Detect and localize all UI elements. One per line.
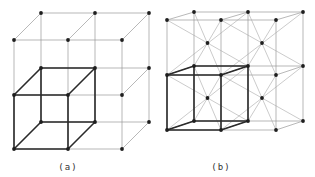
lattice-atom: [39, 11, 43, 15]
lattice-atom: [192, 64, 196, 68]
lattice-edge: [122, 122, 149, 149]
lattice-edge: [276, 121, 303, 130]
lattice-edge: [68, 13, 95, 40]
lattice-edge: [14, 13, 41, 40]
lattice-atom: [274, 73, 278, 77]
lattice-edge: [122, 68, 149, 95]
unit-cell-edge: [221, 66, 248, 75]
lattice-atom: [12, 147, 16, 151]
lattice-atom: [120, 93, 124, 97]
lattice-atom: [274, 128, 278, 132]
lattice-atom: [274, 18, 278, 22]
body-center-atom: [206, 41, 210, 45]
unit-cell-edge: [167, 66, 194, 75]
lattice-atom: [120, 38, 124, 42]
simple-cubic-lattice-panel: [12, 11, 151, 151]
lattice-edge: [167, 12, 194, 20]
lattice-edge: [122, 13, 149, 40]
lattice-edge: [221, 12, 248, 20]
lattice-atom: [219, 73, 223, 77]
lattice-atom: [39, 66, 43, 70]
body-center-atom: [260, 41, 264, 45]
lattice-atom: [147, 11, 151, 15]
lattice-atom: [165, 18, 169, 22]
lattice-atom: [219, 128, 223, 132]
lattice-atom: [66, 147, 70, 151]
lattice-atom: [301, 64, 305, 68]
lattice-atom: [301, 10, 305, 14]
lattice-atom: [246, 119, 250, 123]
lattice-atom: [246, 10, 250, 14]
lattice-atom: [192, 119, 196, 123]
unit-cell-edge: [68, 68, 95, 95]
body-center-atom: [206, 96, 210, 100]
caption-a: (a): [58, 162, 77, 172]
body-center-atom: [260, 96, 264, 100]
lattice-atom: [120, 147, 124, 151]
unit-cell-edge: [167, 121, 194, 130]
caption-b: (b): [211, 162, 230, 172]
lattice-atom: [165, 128, 169, 132]
lattice-atom: [147, 66, 151, 70]
lattice-atom: [165, 73, 169, 77]
unit-cell-edge: [68, 122, 95, 149]
lattice-atom: [93, 11, 97, 15]
unit-cell-edge: [14, 122, 41, 149]
lattice-atom: [219, 18, 223, 22]
unit-cell-edge: [14, 68, 41, 95]
crystal-lattice-figure: [0, 0, 315, 177]
lattice-edge: [276, 12, 303, 20]
lattice-atom: [93, 66, 97, 70]
lattice-atom: [66, 93, 70, 97]
lattice-atom: [301, 119, 305, 123]
lattice-atom: [39, 120, 43, 124]
lattice-atom: [246, 64, 250, 68]
lattice-atom: [12, 93, 16, 97]
lattice-atom: [93, 120, 97, 124]
lattice-atom: [147, 120, 151, 124]
lattice-atom: [12, 38, 16, 42]
unit-cell-edge: [221, 121, 248, 130]
lattice-edge: [276, 66, 303, 75]
lattice-atom: [66, 38, 70, 42]
lattice-atom: [192, 10, 196, 14]
body-centered-cubic-lattice-panel: [165, 10, 305, 132]
